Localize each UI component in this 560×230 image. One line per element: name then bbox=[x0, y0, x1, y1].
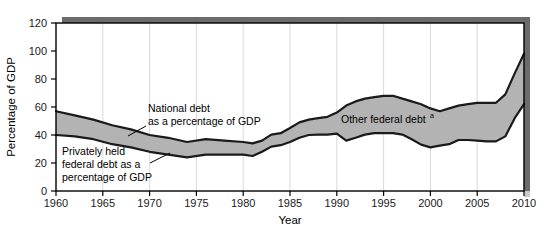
y-tick-label-0: 0 bbox=[41, 185, 47, 197]
debt-percentage-of-gdp-area-chart: 0 20 40 60 80 100 120 Percentage of GDP bbox=[0, 0, 560, 230]
y-tick-label-20: 20 bbox=[35, 157, 47, 169]
chart-container: 0 20 40 60 80 100 120 Percentage of GDP bbox=[0, 0, 560, 230]
y-tick-label-40: 40 bbox=[35, 129, 47, 141]
other-federal-debt-superscript: a bbox=[430, 112, 434, 119]
x-tick-label-1985: 1985 bbox=[278, 197, 302, 209]
y-tick-label-80: 80 bbox=[35, 73, 47, 85]
x-tick-label-2010: 2010 bbox=[512, 197, 536, 209]
annotation-other-federal-debt: Other federal debt a bbox=[341, 112, 434, 125]
y-tick-label-60: 60 bbox=[35, 101, 47, 113]
x-tick-label-1975: 1975 bbox=[184, 197, 208, 209]
national-debt-label-line1: National debt bbox=[148, 102, 210, 114]
y-tick-label-120: 120 bbox=[29, 17, 47, 29]
y-tick-label-100: 100 bbox=[29, 45, 47, 57]
privately-held-label-line2: federal debt as a bbox=[62, 158, 140, 170]
x-tick-label-2000: 2000 bbox=[418, 197, 442, 209]
x-tick-label-1990: 1990 bbox=[325, 197, 349, 209]
other-federal-debt-label: Other federal debt bbox=[341, 113, 426, 125]
y-axis-title: Percentage of GDP bbox=[5, 57, 17, 157]
x-tick-label-1995: 1995 bbox=[371, 197, 395, 209]
privately-held-label-line1: Privately held bbox=[62, 145, 125, 157]
x-tick-label-1980: 1980 bbox=[231, 197, 255, 209]
x-tick-label-1960: 1960 bbox=[44, 197, 68, 209]
national-debt-label-line2: as a percentage of GDP bbox=[148, 115, 261, 127]
x-tick-label-2005: 2005 bbox=[465, 197, 489, 209]
privately-held-label-line3: percentage of GDP bbox=[62, 171, 152, 183]
x-axis-title: Year bbox=[278, 214, 301, 226]
x-tick-label-1965: 1965 bbox=[91, 197, 115, 209]
x-tick-label-1970: 1970 bbox=[137, 197, 161, 209]
